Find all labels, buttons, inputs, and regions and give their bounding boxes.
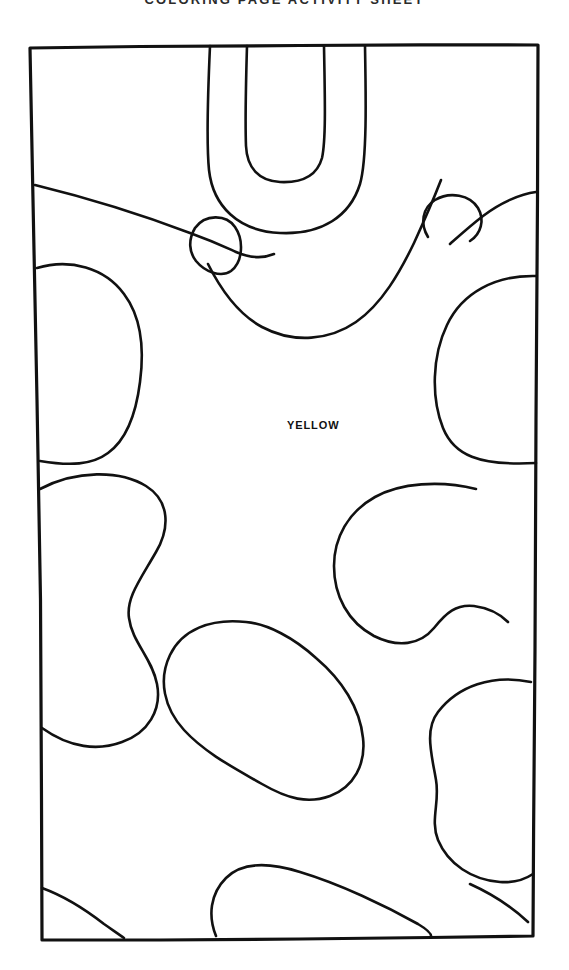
right-bean-blob (334, 484, 508, 643)
region-label-yellow: YELLOW (287, 419, 339, 431)
center-sweep-curve (208, 180, 441, 338)
outer-u-shape (207, 46, 365, 233)
bottom-left-corner-blob (42, 888, 124, 938)
bottom-wedge-blob (211, 865, 431, 937)
small-circle-blob (423, 195, 481, 241)
left-peanut-blob (40, 474, 165, 746)
drawing-border (30, 45, 538, 940)
right-top-curve (450, 192, 536, 244)
right-oval-blob (435, 276, 536, 464)
inner-u-shape (246, 46, 325, 182)
left-d-blob (37, 264, 142, 464)
bottom-right-corner-curve (470, 884, 528, 922)
center-bean-blob (164, 621, 364, 800)
artboard (0, 0, 569, 970)
right-lumpy-blob (430, 680, 533, 883)
teardrop-blob (190, 217, 241, 274)
coloring-page: COLORING PAGE ACTIVITY SHEET (0, 0, 569, 970)
